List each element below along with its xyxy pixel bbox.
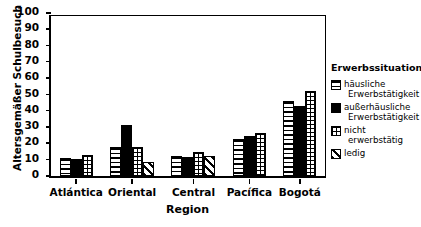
bar <box>121 125 132 176</box>
bar <box>294 106 305 176</box>
x-tick-label: Bogotá <box>279 186 321 198</box>
bar <box>182 157 193 176</box>
bar <box>244 136 255 176</box>
plot-area: 0102030405060708090100 <box>49 15 326 178</box>
legend-title: Erwerbssituation <box>331 62 421 73</box>
x-tick-label: Pacífica <box>227 186 272 198</box>
legend: Erwerbssituation häuslicheErwerbstätigke… <box>331 62 421 162</box>
bar-group <box>60 16 93 176</box>
bar <box>283 101 294 176</box>
legend-items: häuslicheErwerbstätigkeitaußerhäuslicheE… <box>331 79 421 159</box>
legend-item-label: außerhäuslicheErwerbstätigkeit <box>344 102 419 122</box>
x-tick-mark <box>193 179 195 184</box>
bar-chart-figure: Altersgemäßer Schulbesuch 01020304050607… <box>0 0 421 227</box>
bar <box>71 159 82 176</box>
legend-item: ledig <box>331 148 421 159</box>
legend-item-label: nichterwerbstätig <box>344 125 403 145</box>
legend-item: nichterwerbstätig <box>331 125 421 145</box>
legend-swatch-horizontal-lines <box>331 80 341 90</box>
bar <box>233 139 244 176</box>
legend-swatch-solid-black <box>331 103 341 113</box>
legend-swatch-grid <box>331 126 341 136</box>
x-tick-mark <box>131 179 133 184</box>
legend-item-label: ledig <box>344 148 365 158</box>
bar-group <box>283 16 316 176</box>
bar <box>193 152 204 176</box>
bar <box>143 162 154 176</box>
y-axis-title: Altersgemäßer Schulbesuch <box>10 11 24 171</box>
legend-swatch-diagonal-hatch <box>331 149 341 159</box>
bar <box>132 147 143 176</box>
bar <box>204 156 215 176</box>
bar-group <box>171 16 215 176</box>
x-tick-label: Oriental <box>108 186 156 198</box>
bar <box>82 155 93 176</box>
legend-item: häuslicheErwerbstätigkeit <box>331 79 421 99</box>
legend-item: außerhäuslicheErwerbstätigkeit <box>331 102 421 122</box>
x-tick-label: Central <box>172 186 215 198</box>
bar <box>110 147 121 176</box>
bar <box>305 91 316 176</box>
x-tick-mark <box>249 179 251 184</box>
bar <box>60 158 71 176</box>
x-axis: AtlánticaOrientalCentralPacíficaBogotá <box>49 179 326 205</box>
x-tick-label: Atlántica <box>50 186 103 198</box>
x-tick-mark <box>299 179 301 184</box>
bar <box>171 156 182 176</box>
bar <box>255 133 266 176</box>
x-tick-mark <box>75 179 77 184</box>
bar-group <box>110 16 154 176</box>
y-tick-mark <box>46 12 51 14</box>
legend-item-label: häuslicheErwerbstätigkeit <box>344 79 419 99</box>
x-axis-title: Region <box>49 203 326 216</box>
bar-group <box>233 16 266 176</box>
bar-groups <box>51 16 325 176</box>
